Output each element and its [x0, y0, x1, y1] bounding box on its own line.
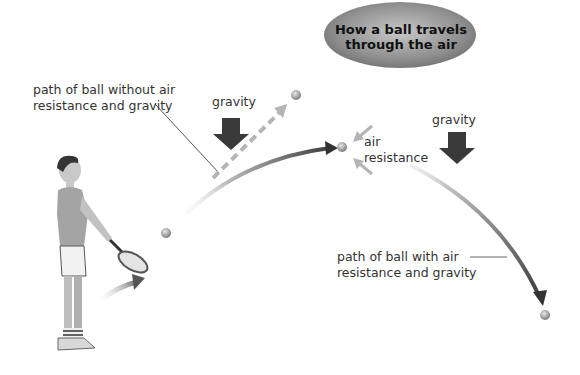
swing-arrowhead: [132, 274, 145, 290]
title-line-1: How a ball travels: [332, 22, 470, 37]
label-path-without-air: path of ball without air resistance and …: [33, 82, 175, 114]
player-shoes: [58, 338, 95, 350]
label-line: resistance and gravity: [33, 98, 175, 114]
label-gravity-right: gravity: [432, 112, 476, 128]
gravity-arrow-right: [439, 132, 475, 164]
diagram: How a ball travels through the air path …: [0, 0, 580, 375]
label-line: path of ball without air: [33, 82, 175, 98]
player-shorts: [60, 246, 86, 276]
dashed-path-arrowhead: [274, 104, 287, 118]
tennis-player-figure: [57, 156, 151, 350]
label-line: air: [364, 134, 428, 150]
ball-launch: [161, 228, 171, 238]
label-line: resistance: [364, 150, 428, 166]
title-line-2: through the air: [332, 37, 470, 52]
ball-no-air: [291, 90, 301, 100]
label-line: path of ball with air: [337, 249, 476, 265]
curved-path-launch: [175, 148, 330, 225]
ball-landing: [540, 310, 550, 320]
swing-arrow: [98, 282, 137, 302]
label-path-with-air: path of ball with air resistance and gra…: [337, 249, 476, 281]
player-shirt: [57, 187, 88, 246]
label-air-resistance: air resistance: [364, 134, 428, 166]
label-line: resistance and gravity: [337, 265, 476, 281]
curved-path-arrowhead: [325, 141, 338, 155]
diagram-canvas: [0, 0, 580, 375]
falling-path-arrowhead: [533, 290, 547, 306]
racket-head: [115, 247, 151, 277]
pointer-line-no-air: [155, 104, 219, 173]
diagram-title: How a ball travels through the air: [332, 22, 470, 52]
label-gravity-left: gravity: [212, 94, 256, 110]
ball-apex: [337, 142, 347, 152]
